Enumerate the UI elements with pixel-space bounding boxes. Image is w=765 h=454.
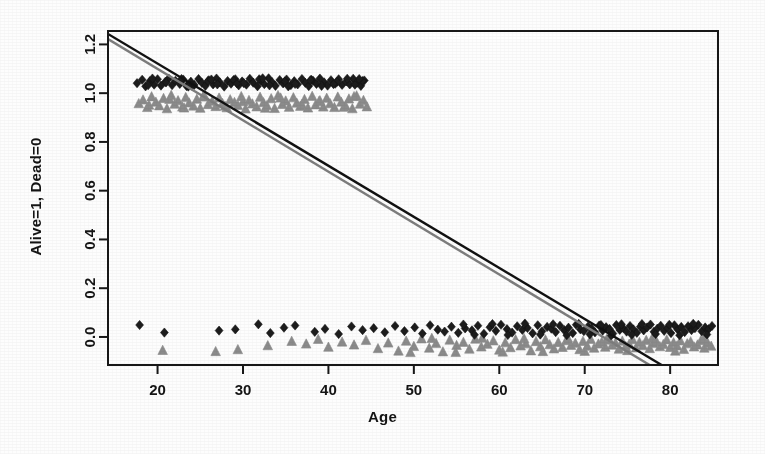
- data-point: [361, 335, 371, 344]
- data-point: [254, 320, 262, 329]
- y-tick-label: 0.4: [81, 228, 98, 250]
- data-point: [381, 328, 389, 337]
- data-point: [263, 341, 273, 350]
- data-point: [373, 343, 383, 352]
- data-point: [359, 326, 367, 335]
- y-tick-label: 1.2: [81, 34, 98, 55]
- x-axis-ticks: 20304050607080: [149, 365, 678, 398]
- scatter-plot-svg: 20304050607080 0.00.20.40.60.81.01.2: [0, 0, 765, 454]
- data-point: [233, 344, 243, 353]
- data-point: [215, 326, 223, 335]
- data-point: [454, 328, 462, 337]
- data-point: [280, 323, 288, 332]
- data-point: [136, 320, 144, 329]
- data-point: [291, 321, 299, 330]
- data-point: [383, 338, 393, 347]
- data-point: [489, 336, 499, 345]
- data-point: [459, 337, 469, 346]
- figure-canvas: 20304050607080 0.00.20.40.60.81.01.2 Age…: [0, 0, 765, 454]
- data-point: [266, 328, 274, 337]
- data-point: [441, 327, 449, 336]
- y-tick-label: 0.6: [81, 180, 98, 201]
- data-point: [349, 340, 359, 349]
- data-point: [401, 327, 409, 336]
- data-point: [301, 339, 311, 348]
- x-tick-label: 30: [235, 381, 252, 398]
- data-point: [211, 346, 221, 355]
- y-tick-label: 0.0: [81, 327, 98, 348]
- data-point: [324, 342, 334, 351]
- data-point: [474, 321, 482, 330]
- y-tick-label: 0.8: [81, 131, 98, 152]
- data-point: [370, 324, 378, 333]
- fit-line-dark: [108, 34, 662, 365]
- x-tick-label: 70: [576, 381, 593, 398]
- data-point: [160, 328, 168, 337]
- x-tick-label: 50: [406, 381, 423, 398]
- data-point: [394, 346, 404, 355]
- data-point: [138, 95, 148, 104]
- data-point: [391, 321, 399, 330]
- regression-lines: [108, 34, 662, 365]
- x-tick-label: 60: [491, 381, 508, 398]
- data-point: [445, 335, 455, 344]
- fit-line-gray: [108, 39, 650, 365]
- data-point: [427, 333, 437, 342]
- y-axis-title: Alive=1, Dead=0: [27, 87, 44, 307]
- data-point: [434, 325, 442, 334]
- y-tick-label: 1.0: [81, 83, 98, 104]
- data-point: [287, 336, 297, 345]
- x-tick-label: 40: [320, 381, 337, 398]
- data-point: [438, 347, 448, 356]
- series-dark-diamonds: [133, 74, 716, 340]
- data-point: [231, 325, 239, 334]
- x-tick-label: 80: [662, 381, 679, 398]
- data-point: [321, 324, 329, 333]
- x-tick-label: 20: [149, 381, 166, 398]
- data-point: [519, 333, 529, 342]
- data-point: [335, 329, 343, 338]
- data-point: [426, 321, 434, 330]
- y-tick-label: 0.2: [81, 278, 98, 299]
- data-point: [158, 345, 168, 354]
- y-axis-ticks: 0.00.20.40.60.81.01.2: [81, 34, 108, 347]
- x-axis-title: Age: [0, 408, 765, 425]
- data-point: [411, 323, 419, 332]
- data-point: [401, 336, 411, 345]
- data-point: [307, 91, 317, 100]
- data-point: [448, 322, 456, 331]
- data-point: [348, 322, 356, 331]
